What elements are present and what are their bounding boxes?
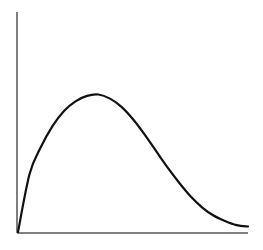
data-curve bbox=[18, 94, 248, 232]
chart bbox=[0, 0, 263, 250]
